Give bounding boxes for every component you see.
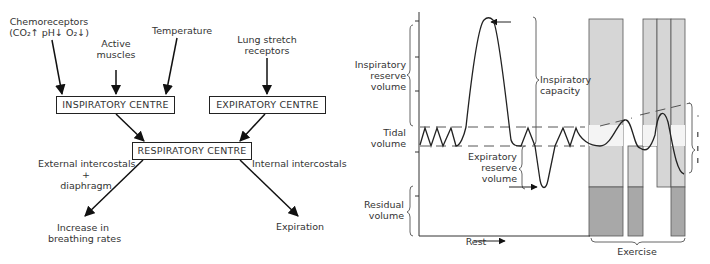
tidal-volume-label: Tidal volume: [362, 127, 406, 149]
erv-line1: Expiratory: [463, 151, 517, 162]
active-muscles-line1: Active: [91, 38, 141, 49]
residual-volume-label: Residual volume: [356, 199, 404, 221]
ic-line2: capacity: [540, 85, 596, 96]
increase-breathing-label: Increase in breathing rates: [48, 222, 118, 244]
irv-line1: Inspiratory: [352, 59, 406, 70]
spirogram-axes: [415, 12, 590, 236]
inspiratory-centre-box: INSPIRATORY CENTRE: [56, 96, 175, 114]
temperature-label: Temperature: [152, 25, 212, 36]
respiratory-centre-box: RESPIRATORY CENTRE: [132, 142, 252, 160]
increase-line1: Increase in: [48, 222, 118, 233]
external-intercostals-plus: +: [38, 169, 134, 180]
exercise-bars: [589, 19, 685, 236]
erv-line2: reserve: [463, 162, 517, 173]
tidal-line1: Tidal: [362, 127, 406, 138]
erv-line3: volume: [463, 173, 517, 184]
lung-stretch-label: Lung stretch receptors: [232, 34, 302, 56]
expiration-label: Expiration: [275, 221, 325, 232]
internal-intercostals-label: Internal intercostals: [252, 158, 338, 169]
increase-line2: breathing rates: [48, 233, 118, 244]
chemoreceptors-line1: Chemoreceptors: [6, 16, 92, 27]
chemoreceptors-label: Chemoreceptors (CO₂↑ pH↓ O₂↓): [6, 16, 92, 38]
lung-stretch-line2: receptors: [232, 45, 302, 56]
diaphragm-line: diaphragm: [38, 180, 134, 191]
rest-label: Rest: [461, 236, 491, 247]
pointer-arrows: [474, 22, 537, 241]
active-muscles-label: Active muscles: [91, 38, 141, 60]
irv-label: Inspiratory reserve volume: [352, 59, 406, 92]
irv-line2: reserve: [352, 70, 406, 81]
active-muscles-line2: muscles: [91, 49, 141, 60]
lung-stretch-line1: Lung stretch: [232, 34, 302, 45]
stray-marks: [697, 115, 699, 163]
exercise-label: Exercise: [612, 246, 662, 257]
ic-line1: Inspiratory: [540, 74, 596, 85]
residual-line1: Residual: [356, 199, 404, 210]
external-intercostals-line1: External intercostals: [38, 158, 134, 169]
expiratory-centre-box: EXPIRATORY CENTRE: [209, 96, 326, 114]
tidal-line2: volume: [362, 138, 406, 149]
chemoreceptors-line2: (CO₂↑ pH↓ O₂↓): [6, 27, 92, 38]
inspiratory-capacity-label: Inspiratory capacity: [540, 74, 596, 96]
irv-line3: volume: [352, 81, 406, 92]
external-intercostals-label: External intercostals + diaphragm: [38, 158, 134, 191]
erv-label: Expiratory reserve volume: [463, 151, 517, 184]
residual-line2: volume: [356, 210, 404, 221]
